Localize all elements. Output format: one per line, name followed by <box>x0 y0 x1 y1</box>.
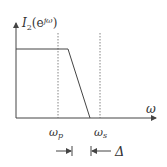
lowpass-filter-diagram: I2(ejω) ω ωp ωs Δ <box>0 0 167 167</box>
magnitude-response-curve <box>16 49 90 118</box>
x-axis-label: ω <box>146 102 156 116</box>
omega-s-label: ωs <box>94 126 107 140</box>
diagram-canvas: I2(ejω) ω ωp ωs Δ <box>0 0 167 167</box>
delta-label: Δ <box>114 144 124 159</box>
y-axis-label: I2(ejω) <box>21 16 57 32</box>
omega-p-label: ωp <box>49 126 63 140</box>
